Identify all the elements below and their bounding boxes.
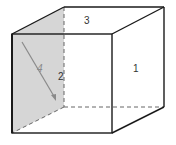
face-label-1: 1 [133, 63, 139, 74]
face-label-2: 2 [58, 71, 64, 82]
cube-diagram: 3 1 2 4 [0, 0, 176, 145]
face-label-4: 4 [37, 63, 43, 74]
face-label-3: 3 [84, 15, 90, 26]
